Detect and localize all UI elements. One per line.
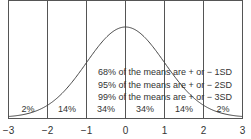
region-label: 34% xyxy=(136,104,154,114)
x-tick-label: −2 xyxy=(42,125,54,136)
region-label: 2% xyxy=(216,104,229,114)
x-tick-label: −3 xyxy=(3,125,15,136)
x-tick-label: −1 xyxy=(81,125,93,136)
annotations: 68% of the means are + or − 1SD95% of th… xyxy=(98,67,233,102)
annotation-text: 95% of the means are + or − 2SD xyxy=(98,80,233,90)
region-label: 14% xyxy=(58,104,76,114)
annotation-text: 99% of the means are + or − 3SD xyxy=(98,92,233,102)
normal-distribution-chart: 2%14%34%34%14%2% 68% of the means are + … xyxy=(0,0,251,139)
x-axis-tick-labels: −3−2−10123 xyxy=(3,125,246,136)
annotation-text: 68% of the means are + or − 1SD xyxy=(98,67,233,77)
region-label: 34% xyxy=(97,104,115,114)
x-tick-label: 3 xyxy=(240,125,246,136)
x-tick-label: 0 xyxy=(123,125,129,136)
region-label: 14% xyxy=(175,104,193,114)
region-label: 2% xyxy=(21,104,34,114)
x-tick-label: 2 xyxy=(201,125,207,136)
x-tick-label: 1 xyxy=(162,125,168,136)
